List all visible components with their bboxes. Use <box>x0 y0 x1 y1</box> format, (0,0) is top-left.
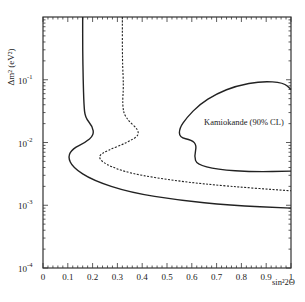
x-tick-label: 0.1 <box>62 272 73 282</box>
y-tick-exponent: -1 <box>27 73 32 80</box>
x-tick-label: 0 <box>41 272 46 282</box>
chart-canvas: 00.10.20.30.40.50.60.70.80.9110-110-210-… <box>0 0 305 302</box>
x-tick-label: 0.4 <box>137 272 149 282</box>
kamiokande-annotation: Kamiokande (90% CL) <box>204 117 284 127</box>
y-tick-exponent: -3 <box>27 198 32 205</box>
contour-curves <box>69 17 291 208</box>
plot-border <box>43 17 291 268</box>
x-tick-label: 0.6 <box>186 272 198 282</box>
plot-frame <box>43 17 291 268</box>
x-tick-label: 0.5 <box>161 272 173 282</box>
x-tick-label: 0.7 <box>211 272 223 282</box>
x-tick-label: 0.2 <box>87 272 98 282</box>
y-tick-exponent: -4 <box>27 261 33 268</box>
x-tick-label: 0.9 <box>261 272 273 282</box>
dashed-contour <box>100 17 291 191</box>
y-tick-exponent: -2 <box>27 136 32 143</box>
x-tick-label: 0.3 <box>112 272 124 282</box>
axis-ticks <box>43 17 291 268</box>
x-tick-label: 0.8 <box>236 272 248 282</box>
x-axis-label: sin²2Θ <box>272 277 295 287</box>
solid-contour <box>69 17 291 208</box>
